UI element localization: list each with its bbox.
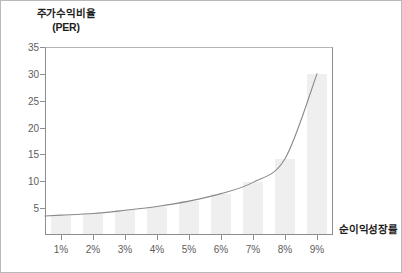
y-axis-tick-label: 10 [28, 176, 39, 187]
y-axis-tick [40, 181, 45, 182]
line-series [45, 47, 333, 235]
y-axis-tick [40, 208, 45, 209]
x-axis-tick [125, 235, 126, 240]
y-axis-title-text: 주가수익비율 [37, 7, 96, 19]
y-axis-tick [40, 101, 45, 102]
chart-figure: 주가수익비율 (PER) 순이익성장률 5101520253035 1%2%3%… [0, 0, 402, 273]
x-axis-tick [61, 235, 62, 240]
x-axis-title: 순이익성장률 [339, 221, 398, 236]
y-axis-tick [40, 47, 45, 48]
x-axis-tick [317, 235, 318, 240]
x-axis-tick [253, 235, 254, 240]
x-axis-tick-label: 1% [54, 244, 68, 255]
y-axis-title: 주가수익비율 (PER) [7, 6, 125, 34]
per-curve-path [45, 74, 317, 216]
x-axis-tick [93, 235, 94, 240]
x-axis-tick [189, 235, 190, 240]
x-axis-tick [285, 235, 286, 240]
y-axis-tick-label: 30 [28, 68, 39, 79]
y-axis-title-unit: (PER) [7, 20, 125, 34]
y-axis-tick-label: 25 [28, 95, 39, 106]
x-axis-tick-label: 4% [150, 244, 164, 255]
line-series-svg [45, 47, 333, 235]
x-axis-tick [157, 235, 158, 240]
x-axis-tick-label: 5% [182, 244, 196, 255]
x-axis-tick-label: 2% [86, 244, 100, 255]
y-axis-tick-label: 15 [28, 149, 39, 160]
y-axis-tick [40, 74, 45, 75]
y-axis-tick [40, 154, 45, 155]
x-axis-tick-label: 8% [278, 244, 292, 255]
y-axis-tick [40, 128, 45, 129]
x-axis-tick [221, 235, 222, 240]
plot-area: 5101520253035 1%2%3%4%5%6%7%8%9% [45, 47, 333, 235]
x-axis-tick-label: 9% [310, 244, 324, 255]
x-axis-tick-label: 3% [118, 244, 132, 255]
x-axis-tick-label: 6% [214, 244, 228, 255]
y-axis-tick-label: 5 [33, 203, 39, 214]
x-axis-tick-label: 7% [246, 244, 260, 255]
y-axis-tick-label: 20 [28, 122, 39, 133]
y-axis-tick-label: 35 [28, 42, 39, 53]
